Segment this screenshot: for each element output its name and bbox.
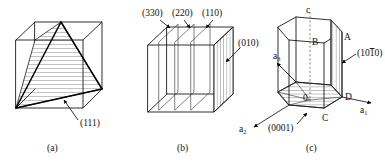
vertex-label-c: C [322,113,328,123]
cube-b-front-edges [148,45,214,112]
vertex-label-d: D [345,92,352,102]
svg-text:(1010): (1010) [357,48,382,59]
svg-text:a2: a2 [239,124,246,135]
panel-b-caption: (b) [177,143,188,154]
plane-label-1010-prefix: (10 [357,48,370,59]
panel-a-caption: (a) [47,143,58,154]
plane-010-hatched [214,27,233,112]
plane-1010-leader [342,54,356,63]
origin-label: 0 [303,93,308,103]
axis-label-c: c [306,5,310,15]
plane-label-330: (330) [142,8,163,19]
plane-330-leader [160,20,170,28]
crystallographic-planes-figure: (111) (a) [0,0,385,163]
axis-a3-subscript: 3 [277,55,280,62]
panel-a-cubic-111: (111) (a) [16,22,102,154]
axis-label-a1: a1 [360,105,367,116]
plane-label-1010-suffix: 0) [374,48,382,59]
plane-label-220: (220) [172,8,193,19]
svg-text:a1: a1 [360,105,367,116]
axis-a3-arrow [277,63,296,82]
axis-label-a3: a3 [273,51,280,62]
plane-label-010: (010) [238,38,259,49]
plane-label-110: (110) [202,8,222,19]
svg-text:a3: a3 [273,51,280,62]
figure-canvas: (111) (a) [0,0,385,163]
plane-111-leader [64,100,78,120]
plane-label-111: (111) [80,118,100,129]
plane-label-0001: (0001) [268,123,293,134]
axis-a1-subscript: 1 [364,109,367,116]
panel-c-hexagonal-cell: c A B C D 0 (1010) (0001) a1 a2 [239,5,382,154]
vertex-label-b: B [312,37,318,47]
plane-label-1010: (1010) [357,48,382,59]
panel-c-caption: (c) [306,143,317,154]
plane-0001-leader [297,113,307,124]
plane-1010-hatched [331,20,342,97]
axis-a2-subscript: 2 [243,128,246,135]
vertex-label-a: A [344,32,351,42]
axis-label-a2: a2 [239,124,246,135]
